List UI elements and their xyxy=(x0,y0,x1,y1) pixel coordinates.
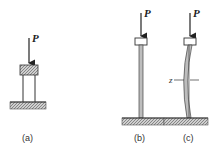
buckled-column-c xyxy=(184,45,192,118)
caption-c: (c) xyxy=(183,133,194,143)
slender-column-b xyxy=(139,45,143,118)
load-block-a xyxy=(20,65,38,75)
load-label-a: P xyxy=(32,32,39,44)
panel-b: P (b) xyxy=(122,7,164,143)
caption-a: (a) xyxy=(22,133,33,143)
load-label-b: P xyxy=(144,7,151,19)
load-block-b xyxy=(135,38,147,45)
ground-c xyxy=(164,118,208,125)
panel-c: P z (c) xyxy=(164,7,208,143)
column-buckling-diagram: P (a) P (b) P z (c) xyxy=(0,0,215,156)
load-block-c xyxy=(184,38,196,45)
deflection-label: z xyxy=(168,75,173,85)
load-label-c: P xyxy=(193,7,200,19)
ground-b xyxy=(122,118,164,125)
caption-b: (b) xyxy=(134,133,145,143)
panel-a: P (a) xyxy=(10,32,46,143)
ground-a xyxy=(10,102,46,109)
